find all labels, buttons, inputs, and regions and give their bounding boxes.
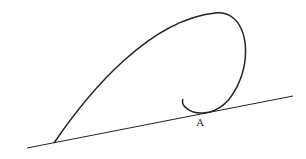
point-a-label: A xyxy=(195,117,204,128)
trajectory-curve xyxy=(54,13,246,143)
diagram-canvas: A xyxy=(0,0,306,159)
incline-line xyxy=(27,96,293,148)
